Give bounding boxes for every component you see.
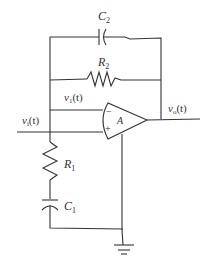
ground-icon: [114, 245, 134, 254]
resistor-r1-zigzag: [43, 142, 57, 199]
v1-label: v1(t): [64, 91, 83, 105]
feedback-r2-branch: [50, 72, 161, 86]
opamp-gain-label: A: [116, 115, 124, 126]
opamp-ground-wire: [122, 134, 123, 245]
resistor-r2-zigzag: [87, 72, 161, 86]
opamp-minus-label: −: [106, 106, 112, 117]
shunt-r1-c1-branch: [42, 132, 123, 229]
circuit-diagram: − + A C2 R2 v1(t) vi(t) vo(t) R1 C1: [0, 0, 210, 266]
output-wire: [147, 119, 200, 120]
op-amp: − + A: [103, 103, 147, 139]
vi-label: vi(t): [22, 114, 40, 128]
r2-label: R2: [97, 55, 109, 71]
c1-label: C1: [64, 199, 76, 215]
vo-label: vo(t): [168, 102, 187, 116]
c2-label: C2: [98, 9, 110, 25]
opamp-plus-label: +: [105, 123, 111, 134]
r1-label: R1: [63, 157, 75, 173]
